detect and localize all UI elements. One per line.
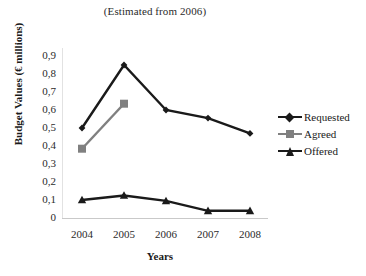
legend-key-triangle-icon: [278, 145, 302, 157]
x-tick-label: 2006: [144, 228, 188, 240]
legend-marker-triangle-icon: [286, 147, 294, 156]
legend-marker-square-icon: [286, 130, 294, 138]
chart-legend: RequestedAgreedOffered: [278, 108, 366, 159]
data-point-requested: [247, 130, 254, 137]
x-axis-title: Years: [60, 250, 260, 262]
legend-key-square-icon: [278, 128, 302, 140]
series-offered: [78, 191, 254, 214]
data-point-requested: [205, 115, 212, 122]
series-line-agreed: [82, 104, 124, 149]
x-tick-label: 2008: [228, 228, 272, 240]
chart-figure: (Estimated from 2006) Budget Values (€ m…: [0, 0, 366, 276]
x-tick-label: 2005: [102, 228, 146, 240]
legend-label: Agreed: [304, 128, 336, 140]
legend-label: Requested: [304, 111, 350, 123]
legend-item-requested[interactable]: Requested: [278, 108, 366, 125]
legend-key-diamond-icon: [278, 111, 302, 123]
x-tick-label: 2007: [186, 228, 230, 240]
data-point-agreed: [78, 145, 86, 153]
x-tick-label: 2004: [60, 228, 104, 240]
legend-label: Offered: [304, 145, 338, 157]
legend-marker-diamond-icon: [285, 112, 295, 122]
legend-item-offered[interactable]: Offered: [278, 142, 366, 159]
series-agreed: [78, 100, 128, 153]
data-point-agreed: [120, 100, 128, 108]
legend-item-agreed[interactable]: Agreed: [278, 125, 366, 142]
